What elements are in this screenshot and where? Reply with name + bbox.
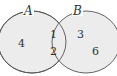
a-only-element: 4 [18,37,25,50]
set-b-label: B [72,4,82,18]
set-b-circle [52,11,117,73]
b-only-element-1: 3 [77,28,84,41]
venn-diagram: A B 4 1 2 3 6 [0,0,117,76]
intersection-element-2: 2 [50,45,57,58]
b-only-element-2: 6 [92,45,99,58]
set-a-label: A [23,4,33,18]
intersection-element-1: 1 [50,28,57,41]
